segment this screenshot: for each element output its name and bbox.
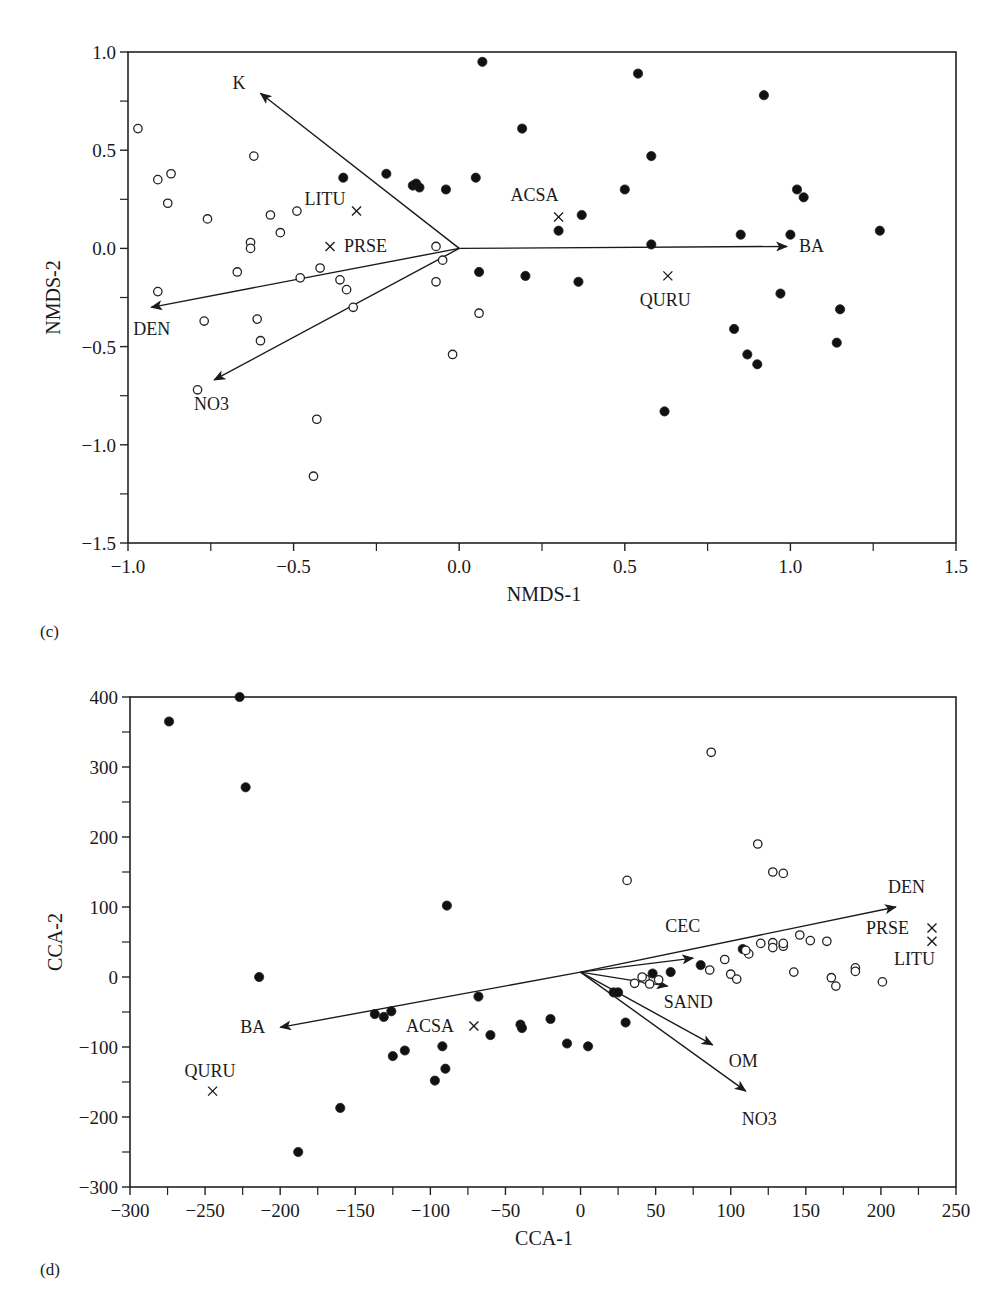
x-tick-label: 100 <box>716 1200 745 1221</box>
filled-site-point <box>562 1039 571 1048</box>
open-site-point <box>313 415 321 423</box>
species-label-quru: QURU <box>185 1061 236 1081</box>
open-site-point <box>134 124 142 132</box>
environmental-vectors: DENCECSANDOMNO3BA <box>240 877 925 1129</box>
filled-site-point <box>255 972 264 981</box>
open-site-point <box>779 869 787 877</box>
open-site-point <box>638 973 646 981</box>
filled-site-point <box>633 69 642 78</box>
vector-label-den: DEN <box>888 877 925 897</box>
open-site-point <box>706 966 714 974</box>
open-site-point <box>203 215 211 223</box>
open-site-point <box>851 967 859 975</box>
x-axis-title: NMDS-1 <box>507 583 581 605</box>
panel-label-d: (d) <box>40 1260 60 1280</box>
open-site-point <box>448 350 456 358</box>
x-tick-label: −300 <box>110 1200 149 1221</box>
open-site-point <box>349 303 357 311</box>
filled-site-point <box>736 230 745 239</box>
y-axis: −300−200−1000100200300400 <box>79 687 130 1198</box>
filled-site-point <box>743 350 752 359</box>
open-site-point <box>253 315 261 323</box>
open-site-point <box>796 931 804 939</box>
vector-arrow-ba <box>459 246 787 248</box>
x-axis-title: CCA-1 <box>515 1227 573 1249</box>
y-tick-label: −300 <box>79 1177 118 1198</box>
vector-arrow-no3 <box>214 248 459 380</box>
filled-site-point <box>759 91 768 100</box>
vector-arrow-k <box>260 93 459 248</box>
filled-site-point <box>666 968 675 977</box>
plot-frame <box>128 52 956 543</box>
vector-label-k: K <box>232 73 245 93</box>
cca-ordination-plot: −300−250−200−150−100−50050100150200250−3… <box>0 650 1004 1297</box>
filled-site-point <box>474 267 483 276</box>
y-tick-label: −100 <box>79 1037 118 1058</box>
x-tick-label: −150 <box>336 1200 375 1221</box>
open-site-point <box>878 978 886 986</box>
vector-label-om: OM <box>729 1051 758 1071</box>
y-tick-label: 1.0 <box>92 42 116 63</box>
filled-site-point <box>621 1018 630 1027</box>
open-site-point <box>654 976 662 984</box>
filled-site-point <box>583 1042 592 1051</box>
y-tick-label: 400 <box>90 687 119 708</box>
x-tick-label: 0.0 <box>447 556 471 577</box>
filled-site-point <box>441 1064 450 1073</box>
y-tick-label: −1.0 <box>82 435 116 456</box>
vector-label-ba: BA <box>799 236 824 256</box>
open-site-point <box>438 256 446 264</box>
open-site-point <box>167 170 175 178</box>
vector-label-no3: NO3 <box>742 1109 777 1129</box>
y-tick-label: 0.5 <box>92 140 116 161</box>
open-site-point <box>623 876 631 884</box>
filled-site-point <box>577 210 586 219</box>
y-tick-label: −200 <box>79 1107 118 1128</box>
open-site-point <box>266 211 274 219</box>
vector-label-ba: BA <box>240 1017 265 1037</box>
y-tick-label: 0 <box>109 967 119 988</box>
filled-site-point <box>241 783 250 792</box>
filled-site-point <box>729 324 738 333</box>
filled-site-point <box>660 407 669 416</box>
x-tick-label: 200 <box>867 1200 896 1221</box>
cca-panel: −300−250−200−150−100−50050100150200250−3… <box>0 650 1004 1297</box>
filled-site-point <box>486 1031 495 1040</box>
filled-site-point <box>339 173 348 182</box>
vector-label-den: DEN <box>133 319 170 339</box>
open-site-point <box>707 748 715 756</box>
open-site-point <box>293 207 301 215</box>
species-label-acsa: ACSA <box>511 185 559 205</box>
open-site-point <box>342 285 350 293</box>
open-site-point <box>779 939 787 947</box>
species-label-prse: PRSE <box>344 236 387 256</box>
series-open <box>623 748 887 990</box>
filled-site-point <box>792 185 801 194</box>
open-site-point <box>806 936 814 944</box>
x-axis: −1.0−0.50.00.51.01.5 <box>111 543 968 577</box>
open-site-point <box>200 317 208 325</box>
filled-site-point <box>517 1024 526 1033</box>
environmental-vectors: KBADENNO3 <box>133 73 824 414</box>
filled-site-point <box>471 173 480 182</box>
x-tick-label: 150 <box>792 1200 821 1221</box>
species-label-litu: LITU <box>305 189 346 209</box>
filled-site-point <box>518 124 527 133</box>
filled-site-point <box>554 226 563 235</box>
open-site-point <box>193 386 201 394</box>
vector-arrow-den <box>151 248 459 307</box>
series-open <box>134 124 484 480</box>
x-tick-label: −100 <box>411 1200 450 1221</box>
species-label-prse: PRSE <box>866 918 909 938</box>
open-site-point <box>250 152 258 160</box>
open-site-point <box>757 939 765 947</box>
filled-site-point <box>613 988 622 997</box>
open-site-point <box>754 840 762 848</box>
filled-site-point <box>647 151 656 160</box>
filled-site-point <box>776 289 785 298</box>
filled-site-point <box>370 1010 379 1019</box>
open-site-point <box>742 946 750 954</box>
x-tick-label: −250 <box>185 1200 224 1221</box>
open-site-point <box>823 937 831 945</box>
open-site-point <box>432 242 440 250</box>
